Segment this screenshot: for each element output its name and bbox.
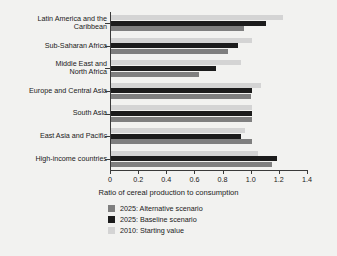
x-axis-tick-label: 0 bbox=[98, 175, 122, 184]
bar-2025-baseline-scenario bbox=[110, 134, 241, 139]
legend-item: 2010: Starting value bbox=[108, 225, 203, 236]
legend-item: 2025: Baseline scenario bbox=[108, 214, 203, 225]
y-axis-tick bbox=[105, 114, 110, 115]
chart-legend: 2025: Alternative scenario2025: Baseline… bbox=[108, 203, 203, 236]
x-axis-tick-label: 0.4 bbox=[154, 175, 178, 184]
legend-swatch-icon bbox=[108, 227, 115, 234]
x-axis-tick-label: 0.2 bbox=[126, 175, 150, 184]
bar-2025-baseline-scenario bbox=[110, 43, 238, 48]
bar-2010-starting-value bbox=[110, 105, 252, 110]
bar-2025-alternative-scenario bbox=[110, 26, 244, 31]
bar-2025-baseline-scenario bbox=[110, 66, 216, 71]
bar-2025-baseline-scenario bbox=[110, 21, 266, 26]
x-axis-tick bbox=[307, 170, 308, 174]
bar-2025-alternative-scenario bbox=[110, 94, 251, 99]
x-axis-tick-label: 0.8 bbox=[211, 175, 235, 184]
bar-group bbox=[110, 125, 307, 148]
bar-2010-starting-value bbox=[110, 15, 283, 20]
y-axis-tick bbox=[105, 91, 110, 92]
bar-group bbox=[110, 80, 307, 103]
bar-group bbox=[110, 102, 307, 125]
legend-item: 2025: Alternative scenario bbox=[108, 203, 203, 214]
bar-2025-baseline-scenario bbox=[110, 156, 277, 161]
x-axis-tick bbox=[251, 170, 252, 174]
bar-group bbox=[110, 35, 307, 58]
legend-label: 2010: Starting value bbox=[120, 226, 184, 235]
bar-2010-starting-value bbox=[110, 151, 258, 156]
bar-group bbox=[110, 57, 307, 80]
category-label: Sub-Saharan Africa bbox=[3, 42, 107, 50]
x-axis-tick-label: 1.0 bbox=[239, 175, 263, 184]
plot-area bbox=[110, 12, 307, 170]
x-axis-tick-label: 1.2 bbox=[267, 175, 291, 184]
bar-group bbox=[110, 12, 307, 35]
bar-2010-starting-value bbox=[110, 128, 245, 133]
category-axis-labels: Latin America and the CaribbeanSub-Sahar… bbox=[0, 12, 107, 170]
y-axis-line bbox=[110, 12, 111, 170]
x-axis-title: Ratio of cereal production to consumptio… bbox=[0, 188, 337, 197]
x-axis-tick-label: 1.4 bbox=[295, 175, 319, 184]
bar-2025-alternative-scenario bbox=[110, 49, 228, 54]
x-axis-tick-label: 0.6 bbox=[182, 175, 206, 184]
category-label: High-income countries bbox=[3, 155, 107, 163]
x-axis-tick bbox=[279, 170, 280, 174]
bar-2010-starting-value bbox=[110, 60, 241, 65]
bar-2025-alternative-scenario bbox=[110, 72, 199, 77]
legend-swatch-icon bbox=[108, 205, 115, 212]
legend-label: 2025: Alternative scenario bbox=[120, 204, 203, 213]
x-axis-line bbox=[110, 170, 307, 171]
x-axis-tick bbox=[138, 170, 139, 174]
legend-swatch-icon bbox=[108, 216, 115, 223]
category-label: Europe and Central Asia bbox=[3, 87, 107, 95]
bar-2025-alternative-scenario bbox=[110, 162, 272, 167]
y-axis-tick bbox=[105, 23, 110, 24]
bar-2025-baseline-scenario bbox=[110, 88, 252, 93]
category-label: Latin America and the Caribbean bbox=[3, 15, 107, 32]
category-label: South Asia bbox=[3, 109, 107, 117]
category-label: Middle East and North Africa bbox=[3, 60, 107, 77]
bar-2010-starting-value bbox=[110, 83, 261, 88]
chart-figure: Latin America and the CaribbeanSub-Sahar… bbox=[0, 0, 337, 256]
x-axis-tick bbox=[223, 170, 224, 174]
bar-2025-alternative-scenario bbox=[110, 139, 252, 144]
bar-2025-alternative-scenario bbox=[110, 117, 252, 122]
y-axis-tick bbox=[105, 159, 110, 160]
y-axis-tick bbox=[105, 68, 110, 69]
y-axis-tick bbox=[105, 136, 110, 137]
y-axis-tick bbox=[105, 46, 110, 47]
x-axis-tick bbox=[110, 170, 111, 174]
bar-group bbox=[110, 147, 307, 170]
category-label: East Asia and Pacific bbox=[3, 132, 107, 140]
bar-2010-starting-value bbox=[110, 38, 252, 43]
x-axis-tick bbox=[194, 170, 195, 174]
x-axis-tick bbox=[166, 170, 167, 174]
bar-2025-baseline-scenario bbox=[110, 111, 252, 116]
legend-label: 2025: Baseline scenario bbox=[120, 215, 197, 224]
